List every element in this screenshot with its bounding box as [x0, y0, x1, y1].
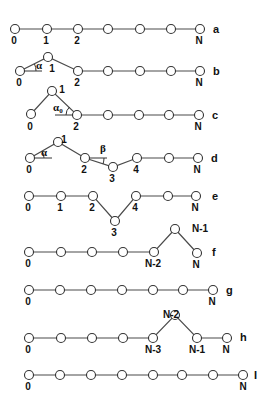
chain-row-c: α0102Nc [27, 84, 219, 132]
chain-node [195, 111, 204, 120]
chain-node [56, 371, 65, 380]
chain-node [43, 25, 52, 34]
row-label: I [254, 369, 257, 381]
chain-node [73, 111, 82, 120]
chain-node [111, 217, 120, 226]
node-label: N-3 [145, 344, 162, 355]
chain-node [196, 67, 205, 76]
node-label: 1 [43, 35, 49, 46]
node-label: 0 [26, 164, 32, 175]
chain-node [118, 371, 127, 380]
chain-node [88, 334, 97, 343]
chain-node [149, 334, 158, 343]
node-label: 3 [111, 227, 117, 238]
row-label: b [213, 65, 220, 77]
node-label: 0 [11, 35, 17, 46]
chain-node [179, 286, 188, 295]
node-label: 1 [59, 84, 65, 95]
chain-node [165, 154, 174, 163]
chain-node [133, 154, 142, 163]
chain-node [239, 371, 248, 380]
chain-configurations-diagram: 012Naα012Nbα0102Ncαβ10234Nd01234NeN-10N-… [0, 0, 269, 412]
chain-node [196, 25, 205, 34]
chain-node [26, 154, 35, 163]
node-label: N [193, 164, 200, 175]
row-label: c [212, 109, 218, 121]
chain-node [57, 248, 66, 257]
node-label: 4 [132, 202, 138, 213]
chain-row-h: N-20N-3N-1Nh [25, 309, 248, 355]
node-label: 0 [25, 258, 31, 269]
chain-node [150, 248, 159, 257]
chain-node [25, 286, 34, 295]
chain-node [16, 67, 25, 76]
chain-node [136, 67, 145, 76]
node-label: 2 [74, 77, 80, 88]
chain-row-i: 0NI [25, 369, 258, 392]
chain-node [56, 286, 65, 295]
node-label: N [195, 35, 202, 46]
angle-label: α [41, 146, 48, 158]
chain-node [104, 111, 113, 120]
node-label: 2 [81, 164, 87, 175]
node-label: N-2 [145, 258, 162, 269]
node-label: 2 [74, 35, 80, 46]
chain-node [25, 334, 34, 343]
node-label: N [194, 121, 201, 132]
chain-node [25, 371, 34, 380]
row-label: e [212, 190, 218, 202]
node-label: N [222, 344, 229, 355]
chain-node [44, 53, 53, 62]
chain-node [209, 286, 218, 295]
node-label: N-1 [192, 223, 209, 234]
chain-row-d: αβ10234Nd [26, 134, 218, 184]
node-label: 4 [133, 164, 139, 175]
node-label: 0 [16, 77, 22, 88]
chain-row-e: 01234Ne [25, 190, 219, 238]
node-label: N-2 [163, 309, 180, 320]
chain-node [74, 25, 83, 34]
chain-node [81, 154, 90, 163]
chain-node [136, 25, 145, 34]
node-label: 3 [109, 173, 115, 184]
chain-node [87, 286, 96, 295]
node-label: 0 [25, 344, 31, 355]
chain-node [109, 163, 118, 172]
chain-node [209, 371, 218, 380]
chain-node [89, 192, 98, 201]
node-label: 2 [89, 202, 95, 213]
chain-node [178, 371, 187, 380]
chain-node [74, 67, 83, 76]
chain-row-b: α012Nb [16, 53, 221, 89]
angle-label: α0 [53, 101, 63, 115]
chain-node [57, 192, 66, 201]
chain-node [57, 334, 66, 343]
chain-node [119, 248, 128, 257]
node-label: 2 [73, 121, 79, 132]
node-label: 0 [25, 296, 31, 307]
node-label: 1 [57, 202, 63, 213]
chain-node [149, 286, 158, 295]
chain-node [25, 248, 34, 257]
chain-node [193, 249, 202, 258]
node-label: 0 [25, 202, 31, 213]
chain-node [135, 111, 144, 120]
angle-subscript: 0 [59, 107, 63, 115]
node-label: 0 [27, 121, 33, 132]
chain-node [171, 225, 180, 234]
node-label: 0 [25, 381, 31, 392]
chain-node [25, 192, 34, 201]
chain-node [87, 371, 96, 380]
row-label: d [211, 152, 218, 164]
node-label: N-1 [189, 344, 206, 355]
chain-node [118, 286, 127, 295]
angle-arc [103, 158, 104, 164]
chain-node [167, 67, 176, 76]
node-label: N [195, 77, 202, 88]
node-label: 1 [61, 134, 67, 145]
chain-row-f: N-10N-2Nf [25, 223, 217, 270]
chain-row-a: 012Na [11, 23, 221, 46]
row-label: h [240, 331, 247, 343]
row-label: f [212, 246, 216, 258]
chain-node [119, 334, 128, 343]
